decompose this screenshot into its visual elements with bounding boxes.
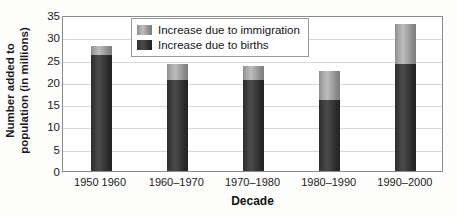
y-axis-tick-label: 35	[38, 10, 60, 22]
bar-segment-immigration	[91, 46, 112, 55]
y-axis-tick-label: 0	[38, 166, 60, 178]
y-axis-tick-labels: 35302520151050	[34, 0, 60, 180]
chart-legend: Increase due to immigrationIncrease due …	[131, 18, 309, 57]
y-axis-tick-label: 30	[38, 32, 60, 44]
x-axis-title: Decade	[62, 194, 443, 208]
legend-label: Increase due to immigration	[158, 24, 300, 36]
bar	[91, 46, 112, 171]
bar	[319, 71, 340, 171]
bar-segment-immigration	[395, 24, 416, 64]
bar-segment-births	[167, 80, 188, 171]
x-axis-tick-label: 1960–1970	[149, 176, 204, 188]
y-axis-tick-label: 20	[38, 77, 60, 89]
x-axis-tick-label: 1980–1990	[301, 176, 356, 188]
y-axis-tick-label: 25	[38, 55, 60, 67]
x-axis-tick-label: 1990–2000	[377, 176, 432, 188]
bar-segment-immigration	[319, 71, 340, 100]
y-axis-title-line2: population (in millions)	[17, 27, 31, 153]
bar-segment-immigration	[243, 66, 264, 79]
bar-segment-births	[243, 80, 264, 171]
bar-segment-births	[91, 55, 112, 171]
bar-segment-births	[319, 100, 340, 171]
legend-item: Increase due to births	[137, 37, 300, 52]
legend-swatch-immigration	[137, 25, 152, 35]
y-axis-tick-label: 10	[38, 121, 60, 133]
y-axis-title-line1: Number added to	[4, 43, 16, 138]
x-axis-tick-labels: 1950 19601960–19701970–19801980–19901990…	[62, 176, 443, 192]
x-axis-tick-label: 1950 1960	[74, 176, 126, 188]
gridline	[63, 62, 442, 63]
legend-label: Increase due to births	[158, 39, 269, 51]
legend-swatch-births	[137, 40, 152, 50]
legend-item: Increase due to immigration	[137, 22, 300, 37]
bar	[243, 66, 264, 171]
bar	[395, 24, 416, 171]
y-axis-tick-label: 5	[38, 144, 60, 156]
x-axis-tick-label: 1970–1980	[225, 176, 280, 188]
bar-segment-births	[395, 64, 416, 171]
y-axis-tick-label: 15	[38, 99, 60, 111]
bar-segment-immigration	[167, 64, 188, 80]
bar-chart-figure: Number added to population (in millions)…	[0, 0, 457, 217]
y-axis-title: Number added to population (in millions)	[0, 0, 34, 180]
bar	[167, 64, 188, 171]
